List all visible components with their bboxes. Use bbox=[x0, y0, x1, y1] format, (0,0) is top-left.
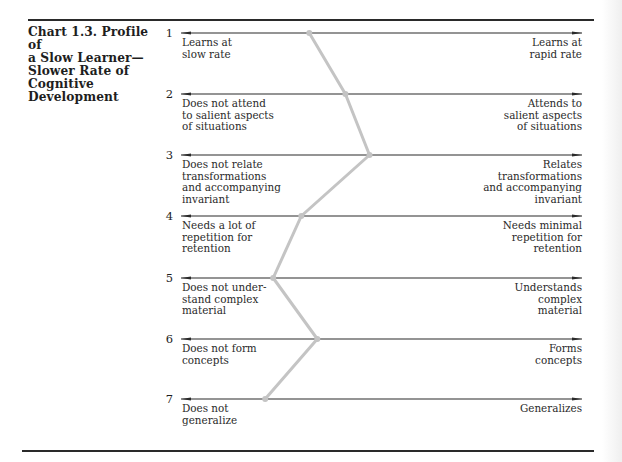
label-line: invariant bbox=[182, 194, 281, 206]
right-pole-label-5: Understands complex material bbox=[514, 282, 582, 317]
right-pole-label-6: Forms concepts bbox=[535, 343, 582, 366]
label-line: of situations bbox=[504, 121, 582, 133]
label-line: Does not bbox=[182, 403, 237, 415]
item-number-5: 5 bbox=[153, 272, 173, 284]
item-number-7: 7 bbox=[153, 393, 173, 405]
left-pole-label-4: Needs a lot of repetition for retention bbox=[182, 220, 255, 255]
item-number-2: 2 bbox=[153, 88, 173, 100]
label-line: concepts bbox=[182, 355, 257, 367]
label-line: Needs a lot of bbox=[182, 220, 255, 232]
label-line: and accompanying bbox=[483, 182, 582, 194]
label-line: Learns at bbox=[182, 37, 232, 49]
left-pole-label-2: Does not attend to salient aspects of si… bbox=[182, 98, 274, 133]
label-line: invariant bbox=[483, 194, 582, 206]
label-line: Relates bbox=[483, 159, 582, 171]
profile-marker-6 bbox=[314, 336, 320, 342]
profile-marker-4 bbox=[298, 213, 304, 219]
label-line: Does not attend bbox=[182, 98, 274, 110]
label-line: Needs minimal bbox=[503, 220, 582, 232]
label-line: and accompanying bbox=[182, 182, 281, 194]
right-pole-label-1: Learns at rapid rate bbox=[529, 37, 582, 60]
label-line: Attends to bbox=[504, 98, 582, 110]
label-line: Forms bbox=[535, 343, 582, 355]
profile-marker-1 bbox=[306, 30, 312, 36]
label-line: concepts bbox=[535, 355, 582, 367]
right-pole-label-2: Attends to salient aspects of situations bbox=[504, 98, 582, 133]
profile-marker-5 bbox=[270, 275, 276, 281]
label-line: of situations bbox=[182, 121, 274, 133]
right-pole-label-7: Generalizes bbox=[520, 403, 582, 415]
item-number-4: 4 bbox=[153, 210, 173, 222]
right-pole-label-3: Relates transformations and accompanying… bbox=[483, 159, 582, 205]
label-line: Learns at bbox=[529, 37, 582, 49]
label-line: Does not under- bbox=[182, 282, 266, 294]
profile-marker-3 bbox=[367, 152, 373, 158]
left-pole-label-7: Does not generalize bbox=[182, 403, 237, 426]
profile-marker-7 bbox=[262, 396, 268, 402]
profile-marker-2 bbox=[342, 91, 348, 97]
label-line: retention bbox=[503, 243, 582, 255]
label-line: slow rate bbox=[182, 49, 232, 61]
label-line: Does not relate bbox=[182, 159, 281, 171]
left-pole-label-5: Does not under- stand complex material bbox=[182, 282, 266, 317]
label-line: material bbox=[514, 305, 582, 317]
label-line: Generalizes bbox=[520, 403, 582, 415]
item-number-1: 1 bbox=[153, 27, 173, 39]
label-line: retention bbox=[182, 243, 255, 255]
label-line: generalize bbox=[182, 415, 237, 427]
item-number-6: 6 bbox=[153, 333, 173, 345]
right-pole-label-4: Needs minimal repetition for retention bbox=[503, 220, 582, 255]
label-line: Does not form bbox=[182, 343, 257, 355]
label-line: material bbox=[182, 305, 266, 317]
label-line: Understands bbox=[514, 282, 582, 294]
item-number-3: 3 bbox=[153, 149, 173, 161]
left-pole-label-6: Does not form concepts bbox=[182, 343, 257, 366]
left-pole-label-3: Does not relate transformations and acco… bbox=[182, 159, 281, 205]
left-pole-label-1: Learns at slow rate bbox=[182, 37, 232, 60]
label-line: rapid rate bbox=[529, 49, 582, 61]
